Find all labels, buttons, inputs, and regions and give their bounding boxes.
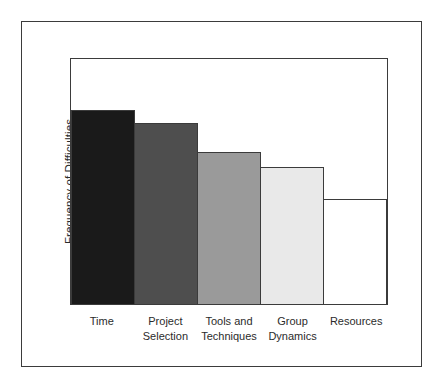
x-axis-category-labels: TimeProject SelectionTools and Technique…	[70, 310, 388, 356]
bar-project-selection[interactable]	[134, 123, 198, 304]
x-label-project-selection: Project Selection	[134, 310, 198, 356]
x-label-time: Time	[70, 310, 134, 356]
bar-series	[71, 59, 387, 304]
bar-resources[interactable]	[323, 199, 387, 304]
x-label-tools-and-techniques: Tools and Techniques	[197, 310, 261, 356]
bar-time[interactable]	[71, 110, 135, 304]
bar-chart-figure: Frequency of Difficulties TimeProject Se…	[0, 0, 444, 389]
x-label-group-dynamics: Group Dynamics	[261, 310, 325, 356]
plot-area-frame	[70, 58, 388, 305]
bar-tools-and-techniques[interactable]	[197, 152, 261, 304]
x-label-resources: Resources	[324, 310, 388, 356]
bar-group-dynamics[interactable]	[260, 167, 324, 304]
